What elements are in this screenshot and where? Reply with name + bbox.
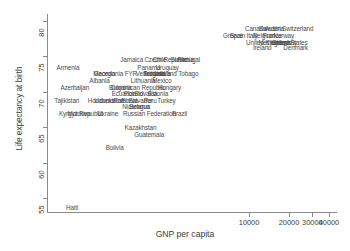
data-point-label: Spain bbox=[230, 32, 246, 39]
data-point-label: Estonia bbox=[148, 90, 168, 97]
data-point-label: Guatemala bbox=[134, 131, 164, 138]
y-tick-label: 55 bbox=[37, 198, 46, 220]
data-point-label: Mexico bbox=[152, 77, 171, 84]
y-axis-line bbox=[47, 14, 48, 213]
data-point-label: Jamaica bbox=[120, 56, 143, 63]
x-tick-label: 40000 bbox=[314, 218, 344, 227]
data-point-label: Bolivia bbox=[106, 144, 124, 151]
x-tick-mark bbox=[329, 213, 330, 217]
data-point-label: Russian Federation bbox=[123, 110, 176, 117]
data-point-label: Uruguay bbox=[156, 64, 179, 71]
x-tick-label: 10000 bbox=[234, 218, 264, 227]
data-point-label: Belarus bbox=[129, 103, 150, 110]
data-point-label: Portugal bbox=[177, 56, 200, 63]
x-tick-mark bbox=[289, 213, 290, 217]
x-tick-mark bbox=[312, 213, 313, 217]
y-tick-label: 70 bbox=[37, 92, 46, 114]
data-point-label: Brazil bbox=[172, 110, 187, 117]
data-point-label: Macedonia FYR bbox=[93, 70, 137, 77]
y-tick-label: 80 bbox=[37, 22, 46, 44]
x-tick-mark bbox=[249, 213, 250, 217]
data-point-label: Ukraine bbox=[97, 110, 118, 117]
x-axis-title: GNP per capita bbox=[40, 229, 330, 239]
y-tick-label: 60 bbox=[37, 163, 46, 185]
data-point-label: Armenia bbox=[57, 64, 80, 71]
data-point-label: United States bbox=[271, 39, 308, 46]
data-point-label: Kazakhstan bbox=[125, 124, 157, 131]
y-tick-label: 75 bbox=[37, 57, 46, 79]
data-point-label: Switzerland bbox=[282, 25, 313, 32]
data-point-label: Turkey bbox=[157, 97, 175, 104]
y-tick-label: 65 bbox=[37, 128, 46, 150]
scatter-chart: Life expectancy at birth GNP per capita … bbox=[0, 0, 350, 251]
data-point-label: Norway bbox=[273, 32, 294, 39]
x-axis-line bbox=[47, 212, 337, 213]
data-point-label: Hungary bbox=[158, 84, 181, 91]
data-point-label: Albania bbox=[89, 77, 109, 84]
data-point-label: Peru bbox=[144, 97, 157, 104]
data-point-label: Moldova bbox=[67, 110, 90, 117]
data-point-label: Azerbaijan bbox=[60, 84, 89, 91]
y-axis-title: Life expectancy at birth bbox=[15, 24, 24, 194]
data-point-label: Haiti bbox=[66, 204, 78, 211]
data-point-label: Tajikistan bbox=[54, 97, 79, 104]
